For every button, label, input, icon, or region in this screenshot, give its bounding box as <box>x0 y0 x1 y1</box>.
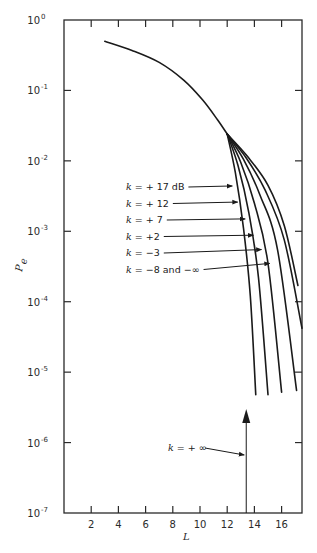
y-tick-label: 10 <box>27 367 40 378</box>
y-axis-label: P e <box>13 257 29 274</box>
y-tick-exponent: -3 <box>41 224 48 232</box>
y-tick-label: 10 <box>27 226 40 237</box>
x-axis-label: L <box>182 531 190 542</box>
series-label: k = −3 <box>126 247 160 258</box>
series-label: k = + 7 <box>126 214 163 225</box>
y-tick-base: 10 <box>27 15 40 26</box>
y-tick-label: 10 <box>27 85 40 96</box>
y-axis-label-sub: e <box>17 257 29 265</box>
series-label-value: = −8 and −∞ <box>132 264 200 275</box>
infinity-label-value: = + ∞ <box>174 442 207 453</box>
series-leader-arrow <box>188 186 232 187</box>
series-leader-arrow <box>167 219 245 220</box>
y-tick-exponent: -5 <box>41 365 48 373</box>
x-tick-label: 8 <box>170 519 176 530</box>
y-tick-label: 10 <box>27 508 40 519</box>
infinity-leader-arrow <box>205 448 244 455</box>
y-tick-label: 10 <box>27 156 40 167</box>
y-tick-base: 10 <box>27 508 40 519</box>
y-tick-base: 10 <box>27 438 40 449</box>
series-label-value: = −3 <box>132 247 160 258</box>
series-leader-arrow <box>173 202 238 203</box>
y-tick-base: 10 <box>27 226 40 237</box>
y-tick-exponent: -6 <box>41 436 49 444</box>
chart: 24681012141610010-110-210-310-410-510-61… <box>0 0 317 553</box>
series-label-value: = + 17 dB <box>132 181 185 192</box>
x-tick-label: 10 <box>194 519 207 530</box>
y-tick-base: 10 <box>27 156 40 167</box>
y-tick-exponent: -1 <box>41 83 48 91</box>
series-label: k = + 17 dB <box>126 181 184 192</box>
series-label-value: = + 7 <box>132 214 163 225</box>
x-tick-label: 16 <box>275 519 288 530</box>
series-leader-arrow <box>204 263 270 269</box>
curve-common <box>105 41 227 134</box>
curve-series-5 <box>227 134 302 328</box>
series-label: k = −8 and −∞ <box>126 264 200 275</box>
series-label-value: = +2 <box>132 231 160 242</box>
x-tick-label: 12 <box>221 519 234 530</box>
y-tick-exponent: -7 <box>41 506 48 514</box>
y-tick-label: 10 <box>27 297 40 308</box>
infinity-label: k = + ∞ <box>168 442 207 453</box>
x-tick-label: 6 <box>142 519 148 530</box>
y-tick-base: 10 <box>27 85 40 96</box>
y-tick-exponent: -2 <box>41 154 48 162</box>
curve-series-4 <box>227 134 296 390</box>
y-tick-label: 10 <box>27 438 40 449</box>
x-tick-label: 2 <box>88 519 94 530</box>
x-tick-label: 4 <box>115 519 121 530</box>
curve-series-1 <box>227 134 256 395</box>
y-tick-exponent: 0 <box>41 13 45 21</box>
x-tick-label: 14 <box>248 519 261 530</box>
series-label-value: = + 12 <box>132 198 169 209</box>
series-leader-arrow <box>164 235 254 236</box>
y-tick-exponent: -4 <box>41 295 49 303</box>
series-label: k = + 12 <box>126 198 169 209</box>
annotations: k = + 17 dBk = + 12k = + 7k = +2k = −3k … <box>126 181 270 513</box>
y-tick-base: 10 <box>27 297 40 308</box>
infinity-arrow-head <box>242 409 250 423</box>
y-tick-label: 10 <box>27 15 40 26</box>
y-tick-base: 10 <box>27 367 40 378</box>
series-label: k = +2 <box>126 231 160 242</box>
